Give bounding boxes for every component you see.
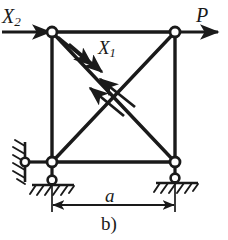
- label-force-x2: X2: [2, 6, 21, 26]
- label-force-x1: X1: [98, 38, 116, 57]
- label-force-x1-base: X: [98, 37, 110, 58]
- node-bottom-left: [47, 157, 57, 167]
- label-dimension-a: a: [105, 186, 115, 205]
- support-right-ground-hatching: [154, 183, 198, 193]
- support-right-ground-pin: [171, 174, 180, 183]
- node-top-right: [170, 27, 180, 37]
- label-force-x2-subscript: 2: [14, 14, 21, 29]
- node-bottom-right: [170, 157, 180, 167]
- node-top-left: [47, 27, 57, 37]
- figure-container: X2 P X1 a b): [0, 0, 228, 240]
- label-load-p: P: [196, 5, 208, 25]
- support-left-wall-pin: [21, 158, 29, 166]
- support-left-ground-pin: [48, 176, 57, 185]
- figure-caption: b): [101, 214, 117, 233]
- label-force-x2-base: X: [2, 5, 14, 27]
- label-force-x1-subscript: 1: [110, 46, 116, 60]
